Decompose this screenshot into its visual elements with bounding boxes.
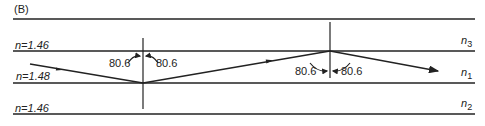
symbol-n1-sub: 1 xyxy=(467,71,472,81)
symbol-n3: n3 xyxy=(461,35,472,49)
symbol-n2: n2 xyxy=(461,98,472,112)
layer-index-top-text: n=1.46 xyxy=(15,39,49,51)
angle-label-1-left: 80.6 xyxy=(109,58,130,69)
layer-index-core: n=1.48 xyxy=(16,71,50,82)
layer-index-bottom: n=1.46 xyxy=(15,103,49,114)
waveguide-diagram: (B) n=1.46 n=1.48 n=1.46 n3 n1 n2 80.6 8… xyxy=(0,0,485,126)
layer-index-bottom-text: n=1.46 xyxy=(15,102,49,114)
layer-index-top: n=1.46 xyxy=(15,40,49,51)
symbol-n1: n1 xyxy=(461,67,472,81)
panel-label: (B) xyxy=(14,4,29,15)
symbol-n2-sub: 2 xyxy=(467,102,472,112)
angle-label-1-right: 80.6 xyxy=(156,58,177,69)
diagram-graphics xyxy=(0,0,485,126)
layer-index-core-text: n=1.48 xyxy=(16,70,50,82)
angle-label-2-right: 80.6 xyxy=(341,66,362,77)
angle-label-2-left: 80.6 xyxy=(295,66,316,77)
symbol-n3-sub: 3 xyxy=(467,39,472,49)
